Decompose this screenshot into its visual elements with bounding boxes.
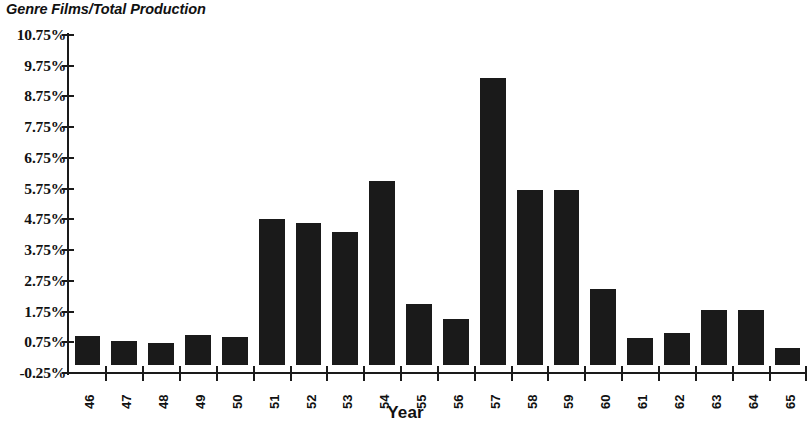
x-axis-tick-mark [658,366,660,381]
y-axis-tick-label: 8.75% [0,87,66,105]
x-axis-tick-mark [253,366,255,381]
bars-layer [69,33,806,373]
y-axis-tick-label: 1.75% [0,303,66,321]
x-axis-tick-mark [584,366,586,381]
chart-title: Genre Films/Total Production [6,1,206,17]
y-axis-tick-label: 4.75% [0,210,66,228]
bar [664,333,690,365]
bar-chart: Genre Films/Total Production -0.25%0.75%… [0,0,811,427]
x-axis-tick-mark [695,366,697,381]
y-axis-tick-label: 7.75% [0,118,66,136]
y-axis-tick-label: -0.25% [0,364,66,382]
x-axis-tick-mark [474,366,476,381]
x-axis-tick-mark [805,366,807,381]
x-axis-title: Year [0,403,811,423]
bar [554,190,580,365]
y-axis-tick-label: 5.75% [0,180,66,198]
bar [75,336,101,365]
bar [148,343,174,365]
y-axis-tick-label: 2.75% [0,272,66,290]
x-axis-tick-mark [105,366,107,381]
bar [111,341,137,366]
bar [775,348,801,366]
bar [590,289,616,366]
x-axis-tick-mark [437,366,439,381]
bar [701,310,727,365]
y-axis-tick-label: 6.75% [0,149,66,167]
bar [185,335,211,365]
x-axis-tick-mark [326,366,328,381]
bar [738,310,764,365]
y-axis-tick-label: 10.75% [0,26,66,44]
bar [222,337,248,365]
bar [517,190,543,365]
x-axis-tick-mark [290,366,292,381]
x-axis-tick-mark [179,366,181,381]
x-axis-tick-mark [621,366,623,381]
x-axis-tick-mark [547,366,549,381]
x-axis-tick-mark [732,366,734,381]
x-axis-tick-mark [400,366,402,381]
x-axis-tick-mark [769,366,771,381]
x-axis-tick-mark [363,366,365,381]
bar [259,219,285,365]
bar [369,181,395,365]
x-axis-tick-mark [142,366,144,381]
bar [406,304,432,365]
x-axis-tick-mark [216,366,218,381]
bar [627,338,653,365]
y-axis-tick-label: 9.75% [0,57,66,75]
bar [480,78,506,365]
bar [332,232,358,365]
x-axis-tick-mark [511,366,513,381]
bar [443,319,469,365]
y-axis-tick-label: 0.75% [0,333,66,351]
y-axis-tick-label: 3.75% [0,241,66,259]
bar [296,223,322,365]
